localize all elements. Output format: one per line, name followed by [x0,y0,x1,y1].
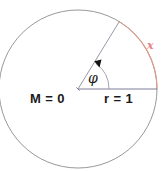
arc-label-x: x [147,40,154,51]
arc-highlight-x [119,22,157,89]
angle-label-phi: φ [88,71,98,85]
terminal-radius-line [78,22,119,89]
center-label: M = 0 [30,92,65,105]
radius-label: r = 1 [104,92,133,105]
figure-canvas [0,0,162,171]
unit-circle-figure: M = 0 r = 1 φ x [0,0,162,171]
